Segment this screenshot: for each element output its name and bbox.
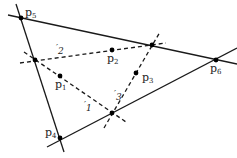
point-p5 <box>19 16 24 21</box>
solid-lines <box>8 4 237 152</box>
point-v-l1-l2 <box>33 58 38 63</box>
label-l2: ′2 <box>56 43 64 56</box>
top-line <box>8 15 237 64</box>
label-p5: p5 <box>25 6 37 20</box>
line-arrangement-diagram: p5p2p1p3p6p4 ′2′1′3 <box>0 0 237 158</box>
label-p4: p4 <box>45 126 57 140</box>
label-p2: p2 <box>107 52 119 66</box>
point-v-l2-l3 <box>150 43 155 48</box>
label-l1: ′1 <box>84 100 92 113</box>
point-v-l1-l3 <box>110 111 115 116</box>
bottom-line <box>47 48 237 147</box>
label-p3: p3 <box>142 71 154 85</box>
point-p3 <box>134 71 139 76</box>
points <box>19 16 219 141</box>
label-p6: p6 <box>210 62 222 76</box>
point-p4 <box>58 136 63 141</box>
label-l3: ′3 <box>114 89 122 102</box>
